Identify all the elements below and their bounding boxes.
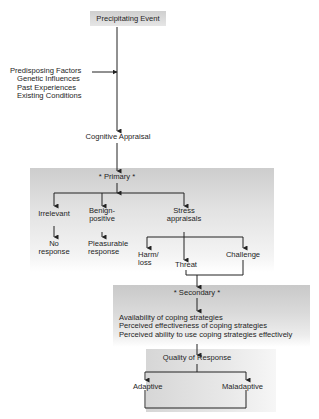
cognitive-appraisal-label: Cognitive Appraisal (80, 133, 156, 141)
predisposing-factors: Predisposing Factors Genetic Influences … (10, 67, 82, 101)
secondary-item: Perceived ability to use coping strategi… (119, 331, 292, 339)
quality-of-response-label: Quality of Response (160, 354, 234, 362)
primary-label: * Primary * (90, 173, 144, 181)
stress-appraisals-label: Stress appraisals (164, 207, 204, 224)
pleasurable-response-label: Pleasurable response (88, 240, 132, 257)
secondary-items: Availability of coping strategies Percei… (119, 314, 292, 339)
secondary-label: * Secondary * (167, 289, 227, 297)
stress-appraisals-text: Stress appraisals (165, 207, 203, 224)
benign-positive-label: Benign-positive (84, 207, 120, 224)
adaptive-label: Adaptive (133, 383, 163, 391)
challenge-label: Challenge (223, 251, 263, 259)
precipitating-event-label: Precipitating Event (90, 15, 166, 23)
no-response-text: No response (36, 240, 72, 257)
harm-loss-label: Harm/ loss (138, 251, 162, 268)
factor-item: Existing Conditions (10, 92, 82, 100)
benign-positive-text: Benign-positive (87, 207, 117, 224)
harm-loss-text: Harm/ loss (138, 251, 160, 268)
no-response-label: No response (30, 240, 78, 257)
irrelevant-label: Irrelevant (34, 210, 74, 218)
pleasurable-response-text: Pleasurable response (88, 240, 132, 257)
maladaptive-label: Maladaptive (222, 383, 263, 391)
threat-label: Threat (166, 261, 206, 269)
